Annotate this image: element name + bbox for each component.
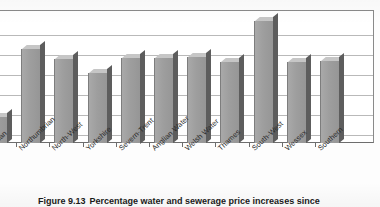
figure-caption: Figure 9.13Percentage water and sewerage… [38, 196, 374, 207]
bar-body [254, 21, 273, 143]
bar-wessex[interactable] [287, 10, 306, 143]
bar-severn-trent[interactable] [121, 10, 140, 143]
bar-anglian[interactable] [0, 10, 7, 143]
figure-container: AnglianNorthumbrianNorth-WestYorkshireSe… [0, 0, 380, 207]
bar-side-face [239, 54, 244, 143]
figure-caption-text: Percentage water and sewerage price incr… [90, 196, 320, 206]
bar-side-face [7, 109, 12, 143]
bar-north-west[interactable] [54, 10, 73, 143]
bar-south-west[interactable] [254, 10, 273, 143]
x-axis-labels: AnglianNorthumbrianNorth-WestYorkshireSe… [0, 146, 380, 192]
bar-yorkshire[interactable] [88, 10, 107, 143]
bar-northumbrian[interactable] [21, 10, 40, 143]
bar-side-face [306, 54, 311, 143]
bar-thames[interactable] [220, 10, 239, 143]
figure-number: Figure 9.13 [38, 196, 86, 206]
bar-anglian-water[interactable] [154, 10, 173, 143]
bar-southern[interactable] [320, 10, 339, 143]
bar-welsh-water[interactable] [187, 10, 206, 143]
